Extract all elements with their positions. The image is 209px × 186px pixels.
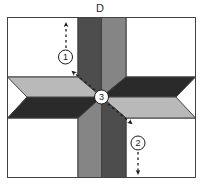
block-label-d: D [96,2,104,14]
quilt-block-figure: D [0,0,209,186]
arrow-3-marker-label: 3 [99,92,104,102]
corner-bottom-left [8,118,79,178]
corner-top-left [8,18,79,78]
quilt-block-svg: D [0,0,209,186]
corner-top-right [126,18,196,78]
arrow-2-marker-label: 2 [135,138,140,148]
arrow-1-marker-label: 1 [63,52,68,62]
